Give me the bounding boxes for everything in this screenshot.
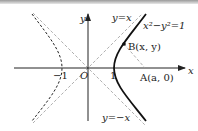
y-axis-label: y [79, 13, 86, 24]
asymptote-pos-label: y=x [111, 12, 132, 23]
origin-label: O [80, 70, 88, 81]
curve-equation-label: x²−y²=1 [143, 20, 185, 31]
point-a-label: A(a, 0) [139, 72, 174, 83]
asymptote-neg-label: y=−x [101, 112, 130, 123]
point-b [122, 42, 126, 46]
x-axis-label: x [188, 65, 194, 76]
tick-one-label: 1 [110, 70, 116, 81]
hyperbola-diagram: y x O 1 −1 y=x x²−y²=1 B(x, y) A(a, 0) y… [0, 0, 198, 131]
tick-neg-one-label: −1 [53, 70, 68, 81]
asymptote-y-eq-neg-x [33, 13, 145, 125]
point-b-label: B(x, y) [128, 41, 161, 52]
